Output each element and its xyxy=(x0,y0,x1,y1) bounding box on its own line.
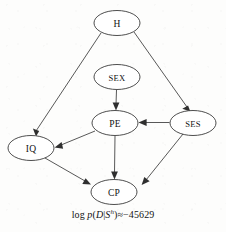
edge-h-to-iq xyxy=(33,33,101,137)
node-pe[interactable]: PE xyxy=(92,111,138,136)
edge-sex-to-pe xyxy=(113,90,120,111)
node-iq[interactable]: IQ xyxy=(8,136,54,161)
node-sex[interactable]: SEX xyxy=(94,65,140,90)
node-sex-label: SEX xyxy=(108,73,126,83)
node-cp[interactable]: CP xyxy=(91,180,137,205)
node-cp-label: CP xyxy=(108,188,120,198)
edge-ses-to-pe xyxy=(139,119,170,126)
node-h-label: H xyxy=(113,19,120,29)
edge-ses-to-cp xyxy=(142,134,183,185)
node-ses-label: SES xyxy=(185,119,201,129)
node-pe-label: PE xyxy=(109,119,121,129)
figure-caption: log p(D|Sh)≈−45629 xyxy=(0,208,226,220)
dag-graph: H SEX PE SES IQ CP xyxy=(0,0,226,208)
node-h[interactable]: H xyxy=(94,11,140,36)
node-ses[interactable]: SES xyxy=(170,111,216,136)
node-iq-label: IQ xyxy=(26,144,37,154)
figure-root: H SEX PE SES IQ CP log p(D|Sh)≈−45629 xyxy=(0,0,226,232)
caption-value: −45629 xyxy=(123,209,154,220)
edge-iq-to-cp xyxy=(45,158,91,185)
edge-h-to-ses xyxy=(134,32,190,112)
caption-log-token: log xyxy=(72,209,85,220)
edge-pe-to-iq xyxy=(55,131,95,149)
edge-pe-to-cp xyxy=(111,136,118,180)
